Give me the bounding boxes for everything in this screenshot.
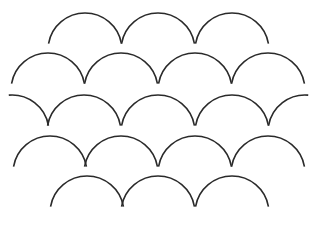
scale-arc bbox=[49, 13, 122, 44]
scale-arc bbox=[122, 95, 195, 126]
scale-arc bbox=[196, 95, 269, 126]
scale-arc bbox=[196, 13, 269, 44]
scale-arcs bbox=[9, 13, 308, 207]
fish-scale-pattern bbox=[0, 0, 325, 228]
scale-arc bbox=[159, 53, 232, 84]
scale-arc bbox=[48, 95, 121, 126]
scale-arc bbox=[12, 53, 85, 84]
scale-arc-partial bbox=[9, 95, 49, 126]
scale-arc bbox=[51, 176, 124, 207]
scale-arc bbox=[196, 176, 269, 207]
scale-arc-partial bbox=[269, 95, 309, 126]
scale-arc bbox=[85, 136, 158, 167]
scale-arc bbox=[85, 53, 158, 84]
scale-arc bbox=[232, 136, 305, 167]
scale-arc bbox=[122, 176, 195, 207]
scale-arc bbox=[232, 53, 305, 84]
scale-arc bbox=[122, 13, 195, 44]
scale-arc bbox=[159, 136, 232, 167]
scale-arc bbox=[14, 136, 87, 167]
